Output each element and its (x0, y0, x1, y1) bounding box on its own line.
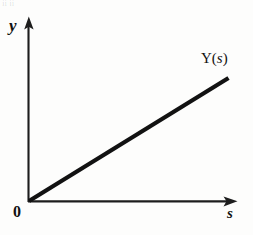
curve-label-prefix: Y( (201, 50, 217, 66)
figure-canvas: ii ii y 0 s Y(s) (0, 0, 253, 235)
curve-label: Y(s) (201, 51, 228, 66)
series-line-Y-of-s (29, 78, 229, 201)
origin-label: 0 (13, 204, 21, 220)
curve-label-suffix: ) (223, 50, 228, 66)
y-axis-label: y (9, 17, 17, 34)
x-axis-label: s (227, 206, 233, 221)
plot-area (0, 0, 253, 235)
